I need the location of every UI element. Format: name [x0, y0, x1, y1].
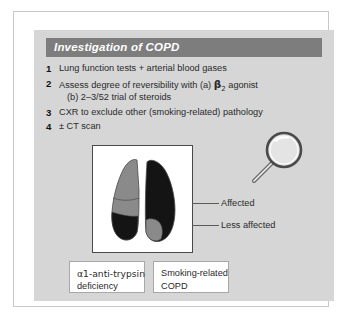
caption-line: α1-anti-trypsin	[77, 267, 137, 280]
magnifier-lens-inner	[270, 136, 298, 164]
annotation-less-affected: Less affected	[221, 220, 275, 230]
magnifier-handle-highlight	[254, 162, 273, 181]
list-item: 1 Lung function tests + arterial blood g…	[46, 63, 326, 78]
list-item-number: 1	[46, 63, 57, 74]
leader-line-less-affected	[192, 225, 219, 226]
list-item-number: 2	[46, 78, 57, 89]
list-item-text-lead: Assess degree of reversibility with (a)	[59, 80, 214, 90]
list-item: 2 Assess degree of reversibility with (a…	[46, 78, 326, 93]
list-item-text: CXR to exclude other (smoking-related) p…	[59, 107, 263, 117]
beta-symbol: β2	[214, 78, 226, 90]
list-item: 3 CXR to exclude other (smoking-related)…	[46, 107, 326, 122]
caption-line: deficiency	[77, 280, 137, 293]
list-item-text: Lung function tests + arterial blood gas…	[59, 63, 227, 73]
header-bar: Investigation of COPD	[46, 38, 322, 57]
leader-line-affected	[192, 203, 219, 204]
list-item-number: 3	[46, 107, 57, 118]
list-item-sub: (b) 2–3/52 trial of steroids	[46, 92, 326, 107]
scan-frame: Investigation of COPD 1 Lung function te…	[13, 11, 329, 307]
caption-line: Smoking-related	[161, 267, 221, 280]
magnifying-glass	[246, 128, 308, 188]
list-item-text: (b) 2–3/52 trial of steroids	[67, 92, 171, 102]
caption-box-smoking-related: Smoking-related COPD	[153, 261, 229, 293]
caption-line: COPD	[161, 280, 221, 293]
caption-box-alpha1-antitrypsin: α1-anti-trypsin deficiency	[69, 261, 145, 293]
content-panel: Investigation of COPD 1 Lung function te…	[34, 30, 334, 301]
annotation-affected: Affected	[221, 198, 255, 208]
list-item-text: Assess degree of reversibility with (a) …	[59, 78, 258, 93]
lung-diagram	[93, 146, 192, 252]
list-item-number: 4	[46, 121, 57, 132]
figure-root: Investigation of COPD 1 Lung function te…	[0, 0, 343, 321]
lung-diagram-background	[93, 146, 192, 252]
list-item-text-tail: agonist	[226, 80, 258, 90]
magnifier-svg	[246, 128, 308, 188]
list-item-text: ± CT scan	[59, 121, 101, 131]
investigation-list: 1 Lung function tests + arterial blood g…	[46, 63, 326, 136]
lung-diagram-panel	[92, 145, 193, 253]
page-title: Investigation of COPD	[54, 41, 180, 53]
